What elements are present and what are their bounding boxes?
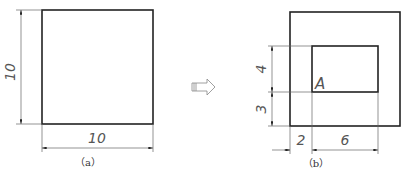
height-label-a: 10 — [2, 63, 18, 81]
dim-label-3: 3 — [253, 105, 269, 114]
figure-a: 10 10 （a） — [2, 10, 153, 168]
diagram-canvas: 10 10 （a） 4 3 2 6 A （b） — [0, 0, 406, 179]
point-label-a: A — [314, 75, 325, 93]
dim-label-2: 2 — [297, 132, 306, 148]
figure-b: 4 3 2 6 A （b） — [253, 12, 400, 169]
dim-label-4: 4 — [253, 65, 269, 74]
width-label-a: 10 — [88, 130, 106, 146]
caption-a: （a） — [75, 157, 101, 168]
dim-label-6: 6 — [341, 132, 350, 148]
square-a — [42, 10, 153, 124]
caption-b: （b） — [303, 158, 329, 169]
hollow-right-arrow-icon — [192, 79, 215, 95]
outer-square-b — [290, 12, 400, 126]
